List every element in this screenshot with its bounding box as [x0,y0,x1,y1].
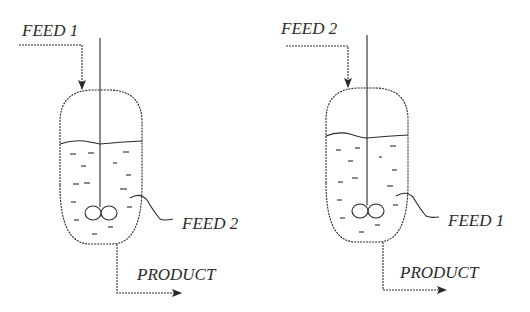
reactor-comparison-diagram: FEED 1 FEED 2 PRODUCT FEED 2 [0,0,530,312]
reactor-a-liquid-marks [70,152,132,234]
reactor-b-top-feed-label: FEED 2 [280,19,338,38]
reactor-a-product-label: PRODUCT [136,265,217,284]
reactor-b-impeller-icon [352,204,384,218]
reactor-b-side-feed-label: FEED 1 [447,211,504,230]
reactor-a: FEED 1 FEED 2 PRODUCT [19,21,239,293]
reactor-a-side-feed-line [130,195,173,220]
reactor-a-impeller-icon [85,206,117,220]
reactor-a-side-feed-label: FEED 2 [181,214,239,233]
reactor-a-top-feed-line [19,45,82,89]
reactor-b-top-feed-line [286,46,348,87]
reactor-b-product-label: PRODUCT [399,263,480,282]
reactor-a-top-feed-label: FEED 1 [21,21,78,40]
reactor-a-liquid-level [60,141,142,144]
reactor-b-side-feed-line [396,193,439,217]
reactor-b: FEED 2 FEED 1 PRODUCT [280,19,504,290]
reactor-a-vessel [60,90,142,244]
